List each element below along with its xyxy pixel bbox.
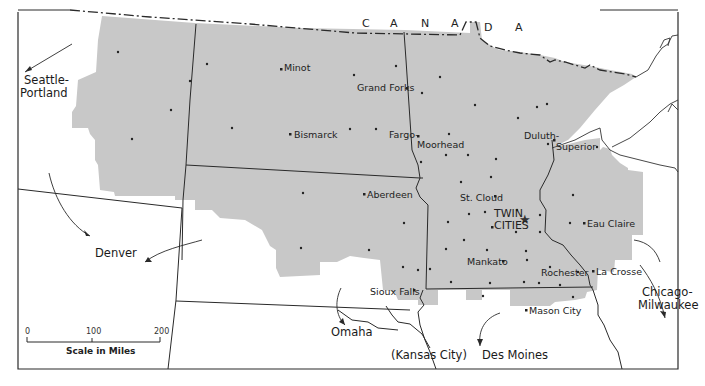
city-label-aberdeen: Aberdeen [367,190,413,200]
city-label-st-cloud: St. Cloud [460,193,503,203]
city-label-eau-claire: Eau Claire [587,219,635,229]
city-label-minot: Minot [284,63,310,73]
scale-title: Scale in Miles [66,346,135,356]
country-letter-a1: A [390,18,398,29]
country-letter-c: C [362,18,370,29]
destination-kansas-city: (Kansas City) [391,350,467,362]
city-label-duluth: Duluth- [524,131,559,141]
city-label-moorhead: Moorhead [417,140,464,150]
scale-tick-100: 100 [86,327,101,336]
city-label-mason-city: Mason City [529,306,581,316]
city-label-cities: CITIES [494,220,529,231]
destination-omaha: Omaha [331,327,373,339]
destination-seattle: Seattle- [24,75,69,87]
destination-des-moines: Des Moines [482,350,548,362]
city-label-grand-forks: Grand Forks [357,83,414,93]
country-letter-d: D [484,22,492,33]
city-label-sioux-falls: Sioux Falls [370,287,420,297]
city-label-fargo: Fargo- [389,130,419,140]
scale-tick-0: 0 [25,327,30,336]
city-label-twin: TWIN [494,208,523,219]
country-letter-a3: A [515,22,523,33]
country-letter-n: N [421,18,429,29]
city-label-rochester: Rochester [541,268,589,278]
destination-portland: Portland [20,88,68,100]
destination-milwaukee: Milwaukee [638,300,698,312]
scale-tick-200: 200 [154,327,169,336]
country-letter-a2: A [451,18,459,29]
scale-bar [27,337,160,342]
destination-chicago: Chicago- [642,287,693,299]
city-label-bismarck: Bismarck [294,130,338,140]
city-label-la-crosse: La Crosse [596,267,642,277]
destination-denver: Denver [95,248,137,260]
trade-area-region [72,16,643,306]
city-label-mankato: Mankato [467,257,508,267]
city-label-superior: Superior [556,142,596,152]
